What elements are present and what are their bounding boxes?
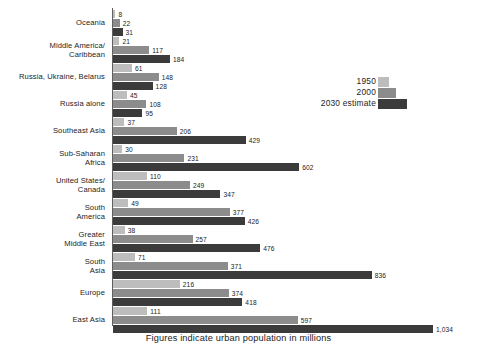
bar-value-label: 429 — [249, 136, 260, 145]
category-label: Sub-SaharanAfrica — [0, 149, 105, 167]
bar-value-label: 371 — [231, 262, 242, 271]
bar-value-label: 249 — [193, 181, 204, 190]
bar-s1950 — [113, 280, 180, 288]
category-label-line: Sub-Saharan — [0, 149, 105, 158]
bar-s2000 — [113, 19, 120, 27]
bar-value-label: 231 — [187, 154, 198, 163]
bar-s1950 — [113, 10, 115, 18]
bar-value-label: 597 — [301, 316, 312, 325]
bar-value-label: 71 — [138, 253, 146, 262]
category-label-line: Caribbean — [0, 50, 105, 59]
category-label-line: South — [0, 203, 105, 212]
bar-s2030 — [113, 163, 299, 171]
bar-value-label: 476 — [263, 244, 274, 253]
category-label-line: East Asia — [0, 315, 105, 324]
bar-value-label: 110 — [150, 172, 161, 181]
bar-s1950 — [113, 37, 119, 45]
category-label: Oceania — [0, 18, 105, 27]
bar-s2030 — [113, 109, 142, 117]
category-label: SouthAmerica — [0, 203, 105, 221]
bar-value-label: 426 — [248, 217, 259, 226]
bar-value-label: 377 — [233, 208, 244, 217]
bar-s1950 — [113, 172, 147, 180]
bar-s1950 — [113, 91, 127, 99]
chart-legend: 195020002030 estimate — [286, 76, 414, 116]
bar-s2030 — [113, 325, 433, 333]
bar-value-label: 148 — [162, 73, 173, 82]
bar-value-label: 49 — [131, 199, 139, 208]
category-label-line: Greater — [0, 230, 105, 239]
category-label-line: Canada — [0, 185, 105, 194]
legend-swatch-s2030 — [378, 99, 407, 109]
bar-s2030 — [113, 244, 260, 252]
category-label-line: Africa — [0, 158, 105, 167]
category-label: United States/Canada — [0, 176, 105, 194]
legend-item: 2000 — [286, 87, 414, 98]
bar-s2000 — [113, 154, 184, 162]
urban-population-bar-chart: Oceania82231Middle America/Caribbean2111… — [0, 0, 477, 354]
bar-value-label: 95 — [145, 109, 153, 118]
bar-s2000 — [113, 289, 229, 297]
category-label: Russia alone — [0, 99, 105, 108]
category-label: Russia, Ukraine, Belarus — [0, 72, 105, 81]
bar-s2000 — [113, 262, 228, 270]
bar-value-label: 8 — [118, 10, 122, 19]
bar-s2000 — [113, 316, 298, 324]
category-label-line: Southeast Asia — [0, 126, 105, 135]
bar-s1950 — [113, 118, 124, 126]
bar-s1950 — [113, 307, 147, 315]
bar-s1950 — [113, 199, 128, 207]
category-label: Europe — [0, 288, 105, 297]
bar-s2030 — [113, 190, 220, 198]
category-label: GreaterMiddle East — [0, 230, 105, 248]
plot-area: Oceania82231Middle America/Caribbean2111… — [0, 8, 477, 326]
legend-swatch-s1950 — [378, 77, 389, 87]
category-label-line: Russia alone — [0, 99, 105, 108]
category-label: SouthAsia — [0, 257, 105, 275]
bar-s2000 — [113, 208, 230, 216]
legend-item-label: 2000 — [357, 87, 376, 98]
bar-value-label: 602 — [302, 163, 313, 172]
bar-value-label: 108 — [149, 100, 160, 109]
bar-value-label: 206 — [180, 127, 191, 136]
bar-s2000 — [113, 181, 190, 189]
bar-value-label: 836 — [375, 271, 386, 280]
category-label: Southeast Asia — [0, 126, 105, 135]
bar-value-label: 37 — [127, 118, 135, 127]
bar-s2000 — [113, 235, 193, 243]
bar-value-label: 374 — [232, 289, 243, 298]
bar-s2030 — [113, 55, 170, 63]
bar-value-label: 184 — [173, 55, 184, 64]
bar-value-label: 128 — [156, 82, 167, 91]
bar-value-label: 347 — [223, 190, 234, 199]
bar-s2030 — [113, 82, 153, 90]
bar-s2030 — [113, 217, 245, 225]
bar-value-label: 117 — [152, 46, 163, 55]
category-label-line: Russia, Ukraine, Belarus — [0, 72, 105, 81]
bar-value-label: 111 — [150, 307, 160, 316]
bar-s2000 — [113, 73, 159, 81]
bar-s2030 — [113, 271, 372, 279]
bar-value-label: 257 — [196, 235, 207, 244]
category-label-line: South — [0, 257, 105, 266]
category-label-line: Europe — [0, 288, 105, 297]
bar-s1950 — [113, 253, 135, 261]
legend-swatch-s2000 — [378, 88, 396, 98]
category-label-line: America — [0, 212, 105, 221]
bar-s1950 — [113, 226, 125, 234]
bar-value-label: 38 — [128, 226, 136, 235]
bar-s2030 — [113, 136, 246, 144]
bar-value-label: 45 — [130, 91, 138, 100]
bar-value-label: 30 — [125, 145, 133, 154]
bar-s2030 — [113, 28, 123, 36]
category-label: East Asia — [0, 315, 105, 324]
category-label-line: Asia — [0, 266, 105, 275]
category-label-line: Middle East — [0, 239, 105, 248]
legend-item-label: 2030 estimate — [321, 98, 376, 109]
bar-s1950 — [113, 145, 122, 153]
category-label: Middle America/Caribbean — [0, 41, 105, 59]
bar-value-label: 22 — [123, 19, 131, 28]
bar-s1950 — [113, 64, 132, 72]
bar-value-label: 216 — [183, 280, 194, 289]
legend-item: 1950 — [286, 76, 414, 87]
